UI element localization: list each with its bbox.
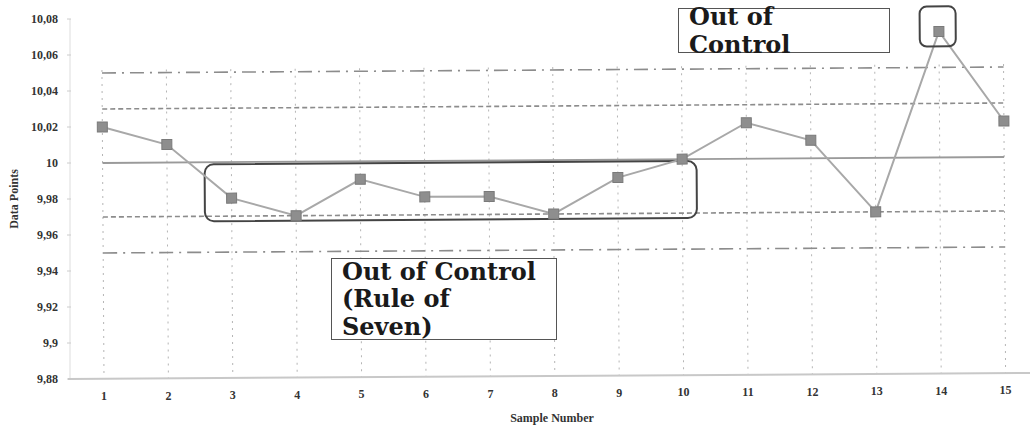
x-tick-label: 5 bbox=[359, 387, 365, 401]
rule-of-seven-highlight-box bbox=[205, 161, 697, 221]
x-axis: 123456789101112131415 bbox=[68, 373, 1030, 403]
data-point-marker bbox=[871, 207, 881, 217]
x-tick-label: 2 bbox=[165, 389, 171, 403]
y-tick-label: 9,9 bbox=[43, 336, 58, 350]
data-point-marker bbox=[97, 122, 107, 132]
x-tick-label: 7 bbox=[487, 387, 493, 401]
x-tick-label: 9 bbox=[616, 386, 622, 400]
data-point-marker bbox=[677, 154, 687, 164]
y-tick-label: 10,04 bbox=[31, 84, 58, 98]
data-point-marker bbox=[291, 211, 301, 221]
y-tick-label: 10 bbox=[46, 156, 58, 170]
chart-canvas: 10,0810,0610,0410,02109,989,969,949,929,… bbox=[0, 0, 1034, 429]
data-point-marker bbox=[162, 140, 172, 150]
y-axis: 10,0810,0610,0410,02109,989,969,949,929,… bbox=[31, 12, 71, 386]
data-point-marker bbox=[934, 26, 944, 36]
data-point-marker bbox=[741, 118, 751, 128]
x-tick-label: 15 bbox=[1000, 383, 1012, 397]
out-of-control-label: Out of Control bbox=[678, 8, 890, 53]
control-chart: 10,0810,0610,0410,02109,989,969,949,929,… bbox=[0, 0, 1034, 429]
rule-of-seven-label: Out of Control (Rule of Seven) bbox=[331, 258, 557, 340]
y-tick-label: 9,94 bbox=[37, 264, 58, 278]
data-point-marker bbox=[355, 174, 365, 184]
x-tick-label: 10 bbox=[678, 385, 690, 399]
rule-of-seven-label-line1: Out of Control bbox=[342, 258, 546, 286]
y-tick-label: 10,08 bbox=[31, 12, 58, 26]
y-tick-label: 9,96 bbox=[37, 228, 58, 242]
control-line bbox=[103, 247, 1005, 253]
y-tick-label: 10,02 bbox=[31, 120, 58, 134]
data-point-marker bbox=[613, 173, 623, 183]
x-tick-label: 14 bbox=[935, 384, 947, 398]
x-axis-title: Sample Number bbox=[510, 411, 594, 425]
data-point-marker bbox=[484, 191, 494, 201]
control-limit-lines bbox=[102, 67, 1005, 253]
x-tick-label: 13 bbox=[871, 384, 883, 398]
rule-of-seven-label-line2: (Rule of Seven) bbox=[342, 285, 546, 340]
y-axis-title: Data Points bbox=[7, 169, 21, 229]
y-tick-label: 9,88 bbox=[37, 372, 58, 386]
x-tick-label: 11 bbox=[742, 385, 753, 399]
x-tick-label: 12 bbox=[806, 385, 818, 399]
data-point-marker bbox=[420, 192, 430, 202]
y-tick-label: 10,06 bbox=[31, 48, 58, 62]
out-of-control-label-text: Out of Control bbox=[689, 3, 879, 58]
x-tick-label: 3 bbox=[230, 388, 236, 402]
data-point-marker bbox=[806, 135, 816, 145]
x-tick-label: 8 bbox=[552, 386, 558, 400]
data-point-marker bbox=[999, 116, 1009, 126]
y-tick-label: 9,98 bbox=[37, 192, 58, 206]
x-tick-label: 4 bbox=[294, 388, 300, 402]
y-tick-label: 9,92 bbox=[37, 300, 58, 314]
x-tick-label: 6 bbox=[423, 387, 429, 401]
x-tick-label: 1 bbox=[101, 389, 107, 403]
data-point-marker bbox=[549, 209, 559, 219]
data-point-marker bbox=[227, 193, 237, 203]
